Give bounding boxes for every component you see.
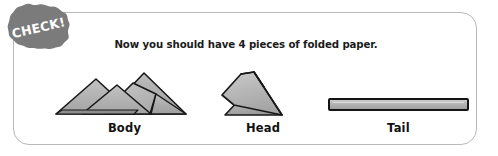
instruction-panel: Now you should have 4 pieces of folded p… [13,12,477,145]
folded-paper-strip-icon [326,61,471,119]
figure-row: Body [14,61,478,146]
check-badge: CHECK! [7,3,71,50]
instruction-heading: Now you should have 4 pieces of folded p… [14,39,478,50]
folded-paper-triangles-icon [52,61,197,119]
folded-paper-wedge-icon [204,61,322,119]
figure-caption-tail: Tail [326,121,471,135]
figure-body: Body [52,61,197,146]
figure-caption-body: Body [52,121,197,135]
starburst-seal-icon [7,3,71,50]
figure-tail: Tail [326,61,471,146]
figure-caption-head: Head [204,121,322,135]
check-panel-screenshot: Now you should have 4 pieces of folded p… [0,0,498,156]
figure-head: Head [204,61,322,146]
